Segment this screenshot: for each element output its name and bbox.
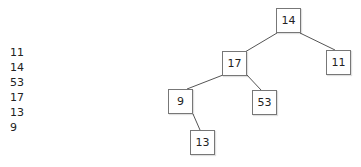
node-label: 14	[282, 14, 296, 27]
node-label: 17	[228, 57, 242, 70]
node-label: 11	[332, 56, 346, 69]
edge-14-17	[245, 33, 277, 52]
node-label: 53	[258, 96, 272, 109]
tree-edges	[0, 0, 361, 167]
tree-node-14: 14	[276, 8, 301, 33]
binary-tree-diagram: 14 17 11 9 53 13	[0, 0, 361, 167]
node-label: 9	[177, 95, 184, 108]
edge-9-13	[193, 114, 200, 130]
tree-node-9: 9	[168, 89, 193, 114]
node-label: 13	[196, 136, 210, 149]
edge-17-9	[187, 75, 223, 89]
tree-node-13: 13	[190, 130, 215, 155]
edge-14-11	[300, 33, 335, 50]
edge-17-53	[246, 74, 261, 90]
tree-node-17: 17	[222, 51, 247, 76]
tree-node-53: 53	[252, 90, 277, 115]
tree-node-11: 11	[326, 50, 351, 75]
